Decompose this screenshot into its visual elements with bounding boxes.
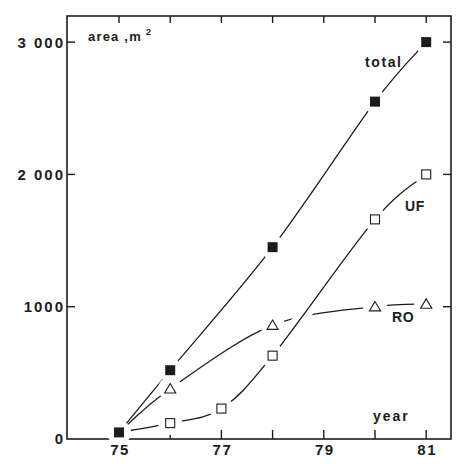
x-tick-label: 79 <box>315 441 335 458</box>
y-tick-label: 3 000 <box>17 34 65 51</box>
y-tick-label: 0 <box>55 430 65 447</box>
y-tick-label: 1000 <box>24 298 65 315</box>
y-axis-label: area ,m <box>88 29 142 44</box>
marker-total-filled-square-icon <box>370 97 380 107</box>
marker-total-filled-square-icon <box>114 427 124 437</box>
marker-uf-open-square-icon <box>268 351 277 360</box>
series-label-total: total <box>365 54 403 70</box>
y-axis-label-superscript: 2 <box>146 27 151 37</box>
y-tick-label: 2 000 <box>17 166 65 183</box>
marker-uf-open-square-icon <box>166 419 175 428</box>
marker-uf-open-square-icon <box>422 170 431 179</box>
chart-canvas: 75777981010002 0003 000 area ,m 2 total … <box>0 0 468 472</box>
x-tick-label: 81 <box>417 441 437 458</box>
marker-uf-open-square-icon <box>371 215 380 224</box>
series-label-uf: UF <box>405 198 425 214</box>
marker-total-filled-square-icon <box>421 37 431 47</box>
marker-gaps <box>107 30 438 444</box>
series-label-ro: RO <box>392 309 414 325</box>
x-axis-label: year <box>373 408 410 424</box>
marker-total-filled-square-icon <box>268 242 278 252</box>
marker-total-filled-square-icon <box>165 365 175 375</box>
line-chart: 75777981010002 0003 000 area ,m 2 total … <box>0 0 468 472</box>
marker-uf-open-square-icon <box>217 404 226 413</box>
x-tick-label: 77 <box>213 441 233 458</box>
